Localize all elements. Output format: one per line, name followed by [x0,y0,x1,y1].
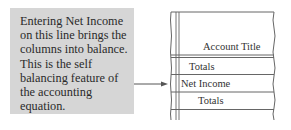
ledger-worksheet [0,0,291,130]
ledger-row-net-income: Net Income [181,78,230,89]
ledger-row-totals: Totals [198,95,224,106]
ledger-row-totals: Totals [189,61,215,72]
ledger-header-account-title: Account Title [203,41,260,52]
